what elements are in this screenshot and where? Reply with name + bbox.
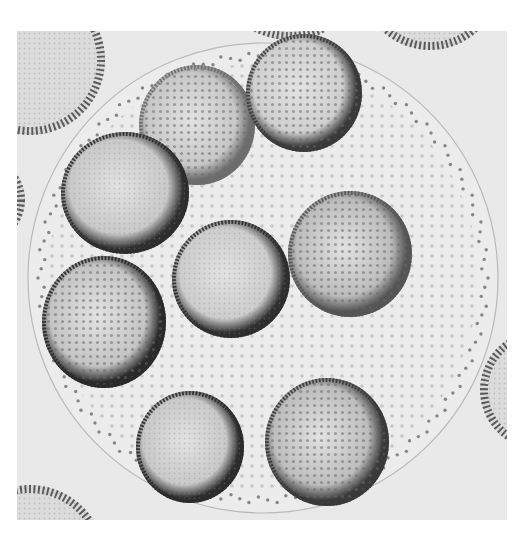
daughter-colony-bottom-center xyxy=(136,391,244,503)
daughter-colony-center xyxy=(172,220,290,338)
volvox-micrograph xyxy=(17,31,507,520)
daughter-colony-top-right xyxy=(246,34,362,152)
daughter-colony-bottom-right xyxy=(265,378,389,506)
daughter-colony-right xyxy=(288,191,412,317)
daughter-colony-upper-left xyxy=(61,132,189,254)
micrograph-canvas xyxy=(17,31,507,520)
daughter-colony-lower-left xyxy=(42,256,166,388)
